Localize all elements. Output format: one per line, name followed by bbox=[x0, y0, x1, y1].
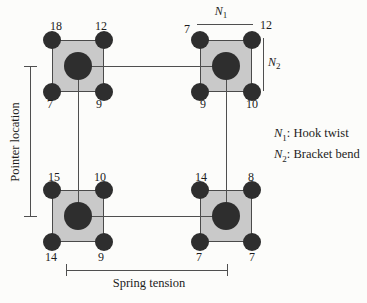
corner-value: 15 bbox=[48, 170, 60, 184]
n1-dimension-line bbox=[197, 24, 253, 25]
corner-value: 12 bbox=[260, 18, 272, 32]
corner-value: 10 bbox=[94, 170, 106, 184]
corner-value: 9 bbox=[200, 97, 206, 111]
corner-value: 14 bbox=[45, 250, 57, 264]
center-dot bbox=[212, 202, 240, 230]
n2-dimension-line bbox=[263, 38, 264, 91]
spring-tension-bracket bbox=[66, 270, 227, 271]
corner-value: 7 bbox=[249, 250, 255, 264]
corner-dot bbox=[191, 233, 209, 251]
corner-value: 7 bbox=[196, 250, 202, 264]
corner-dot bbox=[43, 233, 61, 251]
corner-dot bbox=[95, 31, 113, 49]
connector-top bbox=[78, 66, 226, 67]
pointer-location-tick-top bbox=[24, 66, 37, 67]
corner-value: 18 bbox=[50, 19, 62, 33]
center-dot bbox=[64, 52, 92, 80]
connector-left bbox=[78, 66, 79, 216]
corner-value: 7 bbox=[47, 97, 53, 111]
n1-dimension-label: N1 bbox=[215, 4, 228, 22]
corner-value: 9 bbox=[98, 250, 104, 264]
pointer-location-label: Pointer location bbox=[8, 102, 23, 182]
center-dot bbox=[212, 52, 240, 80]
legend-n2-text: : Bracket bend bbox=[287, 147, 360, 161]
corner-dot bbox=[243, 233, 261, 251]
corner-value: 9 bbox=[96, 97, 102, 111]
corner-dot bbox=[95, 233, 113, 251]
corner-value: 10 bbox=[246, 97, 258, 111]
corner-value: 12 bbox=[95, 19, 107, 33]
n2-dimension-label: N2 bbox=[268, 55, 281, 73]
spring-tension-label: Spring tension bbox=[113, 276, 186, 291]
pointer-location-bracket bbox=[30, 66, 31, 216]
corner-dot bbox=[243, 31, 261, 49]
legend-n2: N2: Bracket bend bbox=[274, 147, 360, 167]
corner-value: 14 bbox=[195, 170, 207, 184]
corner-value: 8 bbox=[248, 170, 254, 184]
corner-dot bbox=[43, 31, 61, 49]
connector-bottom bbox=[78, 216, 226, 217]
spring-tension-tick-left bbox=[66, 264, 67, 276]
legend-n1-text: : Hook twist bbox=[287, 126, 349, 140]
design-diagram: 18 12 7 9 7 12 9 10 15 10 14 9 14 8 7 7 … bbox=[0, 0, 367, 303]
connector-right bbox=[226, 66, 227, 216]
center-dot bbox=[64, 202, 92, 230]
corner-value: 7 bbox=[184, 22, 190, 36]
pointer-location-tick-bottom bbox=[24, 216, 37, 217]
corner-dot bbox=[191, 31, 209, 49]
legend-n1: N1: Hook twist bbox=[274, 126, 349, 146]
spring-tension-tick-right bbox=[227, 264, 228, 276]
